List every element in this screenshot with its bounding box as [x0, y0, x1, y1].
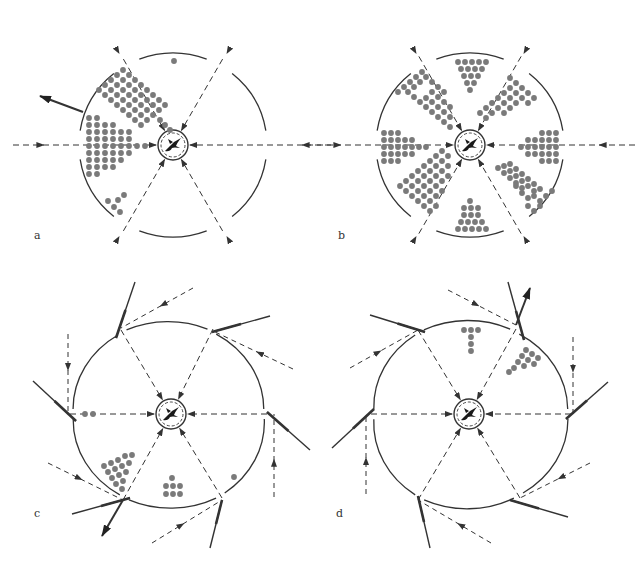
dot-cluster-lower-left-sector — [397, 148, 451, 214]
dot-cluster-lower-right-sector — [495, 161, 555, 214]
dot-cluster-top-sector — [461, 327, 481, 354]
escape-direction-arrow — [516, 288, 530, 325]
panel-a — [13, 46, 333, 243]
diagram-figure: a b c d — [0, 0, 636, 575]
dot-cluster-bottom-sector — [455, 198, 489, 232]
dot-cluster-right-sector — [518, 130, 559, 164]
panel-label-b: b — [338, 229, 345, 242]
dot-cluster-left-sector — [381, 130, 429, 164]
dot-cluster-top-dot — [171, 58, 177, 64]
dot-cluster-right-dot — [231, 474, 237, 480]
panel-label-c: c — [34, 507, 40, 520]
dot-cluster-bottom-sector — [163, 475, 183, 497]
panel-label-a: a — [34, 229, 41, 242]
dot-cluster-upper-left-sector — [96, 67, 173, 133]
dot-cluster-top-sector — [455, 59, 489, 93]
panel-d — [332, 282, 608, 548]
dot-cluster-left-pair — [82, 411, 96, 417]
panel-label-d: d — [336, 507, 343, 520]
panel-c — [33, 282, 310, 548]
escape-direction-arrow — [40, 96, 83, 112]
dot-cluster-upper-right-sector — [477, 75, 537, 121]
diagram-canvas — [0, 0, 636, 575]
dot-cluster-upper-left-sector — [395, 69, 453, 130]
dot-cluster-upper-right-sector — [506, 347, 541, 375]
panel-b — [305, 46, 635, 243]
